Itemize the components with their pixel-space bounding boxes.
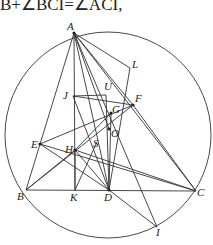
label-O: O — [111, 127, 119, 139]
segment-HC — [75, 150, 196, 191]
circumcircle — [5, 32, 211, 238]
point-E — [38, 142, 41, 145]
label-A: A — [66, 20, 74, 32]
segment-DI — [109, 190, 157, 227]
geometry-figure: ALUJFGOSHEBKDCI — [0, 0, 213, 245]
segment-FC — [133, 105, 196, 191]
point-H — [73, 148, 76, 151]
segment-AB — [26, 33, 74, 190]
label-B: B — [17, 190, 24, 202]
label-E: E — [30, 138, 38, 150]
segment-EC — [40, 144, 196, 191]
label-G: G — [112, 103, 120, 115]
label-F: F — [134, 92, 142, 104]
label-D: D — [103, 191, 112, 203]
label-I: I — [155, 226, 161, 238]
segment-BH — [26, 150, 75, 190]
label-S: S — [93, 137, 99, 149]
label-K: K — [69, 191, 78, 203]
label-U: U — [104, 80, 113, 92]
label-L: L — [131, 58, 138, 70]
label-C: C — [197, 186, 205, 198]
segment-AF — [74, 33, 133, 105]
segment-AL — [74, 33, 130, 68]
segment-AC — [74, 33, 196, 191]
segment-SK — [75, 142, 97, 190]
label-J: J — [63, 89, 69, 101]
label-H: H — [64, 143, 74, 155]
segment-UD — [106, 95, 109, 190]
